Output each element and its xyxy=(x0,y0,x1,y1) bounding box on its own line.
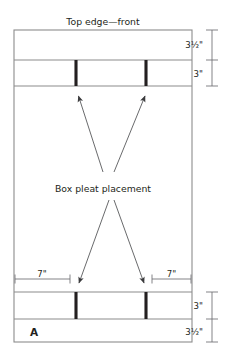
center-label: Box pleat placement xyxy=(55,183,151,194)
panel-letter: A xyxy=(30,326,39,338)
page-title: Top edge—front xyxy=(65,16,140,27)
diagram-canvas: Top edge—front Box pleat placement 7" 7 xyxy=(0,0,236,350)
dim-label-right-offset: 7" xyxy=(167,269,176,279)
dim-label-bottom-strip: 3" xyxy=(194,301,203,311)
box-pleat-placement-diagram: Top edge—front Box pleat placement 7" 7 xyxy=(0,0,236,350)
dim-label-left-offset: 7" xyxy=(37,269,46,279)
dim-label-top-strip: 3" xyxy=(194,69,203,79)
dim-label-top-band: 3½" xyxy=(185,40,203,50)
dim-label-bottom-band: 3½" xyxy=(185,327,203,337)
